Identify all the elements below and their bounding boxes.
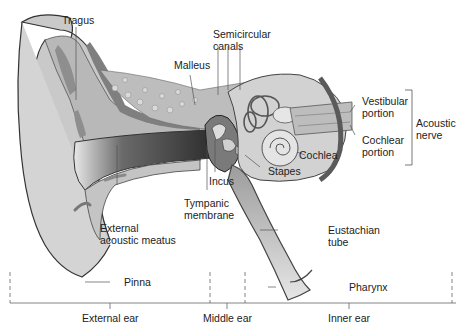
label-semicircular-canals: Semicircular canals — [213, 28, 271, 52]
label-vestibular-portion: Vestibular portion — [362, 95, 408, 119]
label-malleus: Malleus — [174, 59, 210, 71]
eustachian-tube-shape — [228, 165, 310, 300]
label-stapes: Stapes — [268, 165, 301, 177]
label-tympanic-membrane: Tympanic membrane — [184, 197, 234, 221]
cochlea-shape — [262, 130, 298, 166]
label-tragus: Tragus — [62, 14, 94, 26]
region-external-ear: External ear — [82, 312, 139, 324]
label-incus: Incus — [209, 175, 234, 187]
label-cochlea: Cochlea — [299, 149, 338, 161]
label-cochlear-portion: Cochlear portion — [362, 134, 404, 158]
label-pinna: Pinna — [124, 276, 151, 288]
label-external-acoustic-meatus: External acoustic meatus — [100, 222, 176, 246]
region-middle-ear: Middle ear — [203, 312, 252, 324]
label-pharynx: Pharynx — [349, 281, 388, 293]
ear-anatomy-diagram: Tragus Semicircular canals Malleus Vesti… — [0, 0, 466, 329]
label-eustachian-tube: Eustachian tube — [328, 224, 380, 248]
region-inner-ear: Inner ear — [328, 312, 370, 324]
label-acoustic-nerve: Acoustic nerve — [416, 117, 456, 141]
region-scale-bar — [10, 272, 456, 309]
